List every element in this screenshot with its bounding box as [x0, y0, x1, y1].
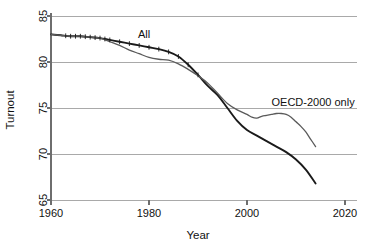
y-tick-labels: 6570758085: [37, 10, 49, 206]
series-line-oecd-2000-only: [51, 34, 316, 146]
y-tick-label: 75: [37, 102, 49, 114]
data-series: [51, 34, 316, 183]
series-annotations: AllOECD-2000 only: [138, 28, 355, 108]
y-tick-label: 80: [37, 56, 49, 68]
chart-container: 6570758085 1960198020002020 AllOECD-2000…: [0, 0, 375, 250]
y-tick-label: 70: [37, 148, 49, 160]
series-label-all: All: [138, 28, 150, 40]
rug-marks: [66, 33, 198, 77]
y-tick-label: 85: [37, 10, 49, 22]
x-axis-title: Year: [186, 229, 209, 241]
x-tick-label: 2020: [333, 207, 357, 219]
x-tick-label: 1960: [39, 207, 63, 219]
series-line-all: [51, 34, 316, 183]
x-tick-label: 1980: [137, 207, 161, 219]
x-tick-label: 2000: [235, 207, 259, 219]
line-chart: 6570758085 1960198020002020 AllOECD-2000…: [0, 0, 375, 250]
y-axis-title: Turnout: [4, 90, 16, 130]
x-tick-labels: 1960198020002020: [39, 207, 357, 219]
axis-ticks: [47, 16, 345, 205]
series-label-oecd-2000-only: OECD-2000 only: [272, 96, 356, 108]
y-tick-label: 65: [37, 194, 49, 206]
